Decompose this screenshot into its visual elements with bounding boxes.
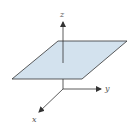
x-axis-label: x bbox=[32, 115, 37, 124]
diagram: z y x bbox=[0, 0, 133, 125]
y-axis-label: y bbox=[104, 84, 110, 93]
x-axis bbox=[39, 89, 63, 112]
plane bbox=[12, 41, 127, 79]
z-axis-label: z bbox=[59, 10, 65, 19]
